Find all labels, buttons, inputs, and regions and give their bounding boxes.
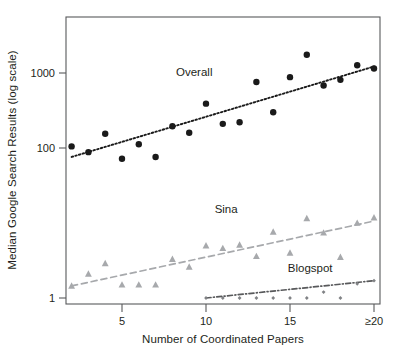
data-point-overall: [287, 74, 293, 80]
data-point-overall: [320, 82, 326, 88]
data-point-overall: [270, 109, 276, 115]
data-point-overall: [152, 154, 158, 160]
y-tick-label: 100: [37, 142, 55, 154]
data-point-sina: [135, 281, 142, 287]
y-tick-label: 1: [49, 292, 55, 304]
data-point-overall: [85, 149, 91, 155]
series-label-sina: Sina: [215, 203, 239, 215]
data-point-overall: [102, 131, 108, 137]
data-point-overall: [236, 119, 242, 125]
data-point-blogspot: [322, 290, 326, 294]
plot-frame: [66, 17, 380, 304]
data-point-overall: [186, 129, 192, 135]
data-point-sina: [102, 260, 109, 266]
data-point-blogspot: [204, 296, 208, 300]
data-point-overall: [203, 100, 209, 106]
data-point-sina: [354, 219, 361, 225]
data-point-blogspot: [238, 296, 242, 300]
data-point-overall: [68, 143, 74, 149]
trend-line-blogspot: [206, 281, 374, 298]
data-point-sina: [270, 228, 277, 234]
data-point-overall: [304, 52, 310, 58]
data-point-overall: [220, 121, 226, 127]
x-axis-ticks: 51015≥20: [119, 304, 383, 327]
data-point-sina: [303, 215, 310, 221]
data-point-sina: [253, 253, 260, 259]
trend-line-overall: [72, 67, 374, 157]
data-point-sina: [85, 270, 92, 276]
x-tick-label: 15: [284, 315, 296, 327]
trend-line-sina: [72, 221, 374, 286]
data-point-sina: [287, 249, 294, 255]
data-point-overall: [136, 141, 142, 147]
series-label-overall: Overall: [176, 66, 212, 78]
series-label-blogspot: Blogspot: [288, 262, 334, 274]
data-point-sina: [236, 241, 243, 247]
data-point-sina: [337, 254, 344, 260]
data-point-overall: [253, 79, 259, 85]
data-point-sina: [186, 263, 193, 269]
x-tick-label: 10: [200, 315, 212, 327]
data-point-overall: [169, 123, 175, 129]
data-point-blogspot: [271, 296, 275, 300]
scatter-plot: 10001001 51015≥20 OverallSinaBlogspot Nu…: [0, 0, 399, 360]
data-point-blogspot: [288, 296, 292, 300]
figure-container: 10001001 51015≥20 OverallSinaBlogspot Nu…: [0, 0, 399, 360]
data-point-sina: [119, 281, 126, 287]
series-annotations: OverallSinaBlogspot: [176, 66, 333, 274]
data-point-sina: [371, 214, 378, 220]
data-point-sina: [169, 256, 176, 262]
data-point-sina: [203, 242, 210, 248]
data-point-blogspot: [339, 296, 343, 300]
x-tick-label: ≥20: [365, 315, 383, 327]
data-point-blogspot: [305, 296, 309, 300]
data-point-blogspot: [372, 279, 376, 283]
y-tick-label: 1000: [31, 67, 55, 79]
data-point-overall: [354, 62, 360, 68]
data-point-sina: [219, 245, 226, 251]
data-point-overall: [371, 65, 377, 71]
data-point-overall: [337, 77, 343, 83]
x-axis-title: Number of Coordinated Papers: [142, 333, 304, 345]
y-axis-title: Median Google Search Results (log scale): [6, 50, 18, 269]
x-tick-label: 5: [119, 315, 125, 327]
data-point-sina: [152, 281, 159, 287]
data-point-blogspot: [255, 296, 259, 300]
data-point-overall: [119, 156, 125, 162]
y-axis-ticks: 10001001: [31, 67, 66, 304]
